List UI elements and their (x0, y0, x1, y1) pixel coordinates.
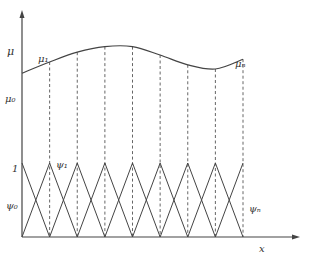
curve-label-mu0: μ₀ (5, 93, 16, 104)
y-axis-label: μ (7, 45, 14, 58)
node-dashed-lines (50, 47, 243, 237)
basis-label-psin: ψₙ (249, 203, 261, 214)
basis-function-diagram: μ x μ₀ μ₁ μₙ 1 ψ₀ ψ₁ ψₙ (0, 0, 310, 256)
basis-label-psi0: ψ₀ (6, 200, 18, 211)
y-axis-arrow-icon (20, 10, 25, 18)
x-axis-arrow-icon (292, 235, 300, 240)
curve-label-mu1: μ₁ (38, 53, 49, 64)
curve-label-mun: μₙ (235, 58, 246, 69)
unit-level-label: 1 (12, 163, 18, 174)
x-axis-label: x (259, 243, 265, 254)
basis-label-psi1: ψ₁ (56, 159, 68, 170)
